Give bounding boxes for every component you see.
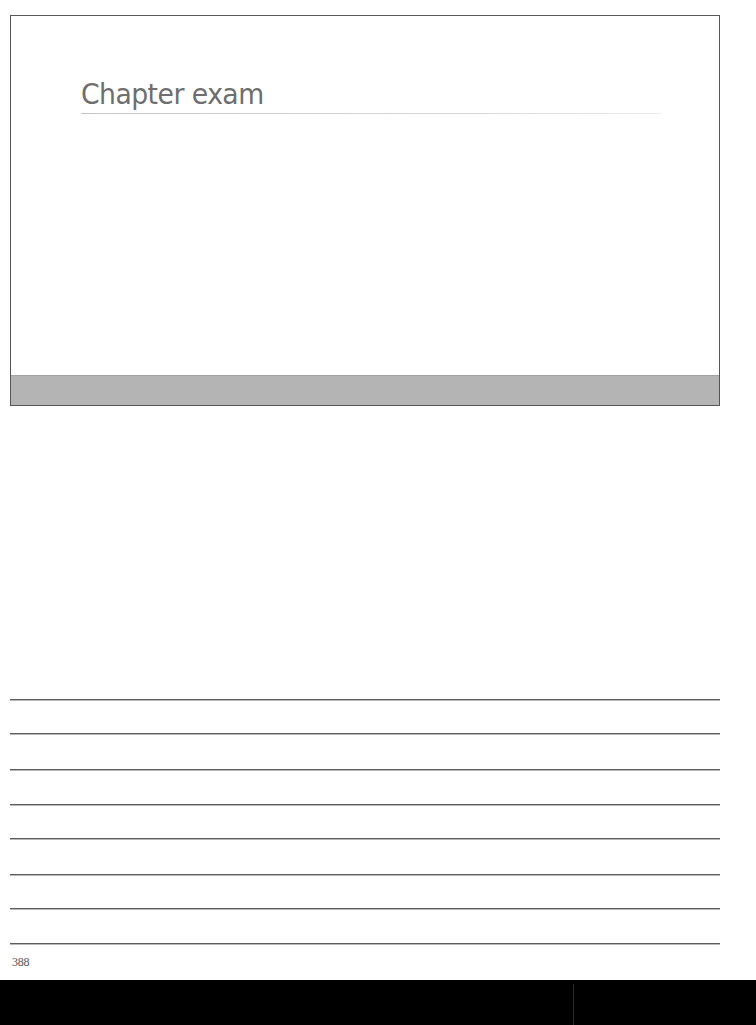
note-line <box>10 943 720 945</box>
note-line <box>10 874 720 876</box>
note-line <box>10 804 720 806</box>
note-line <box>10 699 720 701</box>
note-line <box>10 733 720 735</box>
note-line <box>10 838 720 840</box>
note-line <box>10 908 720 910</box>
page-number: 388 <box>12 955 29 970</box>
note-line <box>10 769 720 771</box>
notes-area <box>10 0 720 960</box>
scan-border <box>0 980 756 1025</box>
scan-divider <box>573 984 574 1025</box>
